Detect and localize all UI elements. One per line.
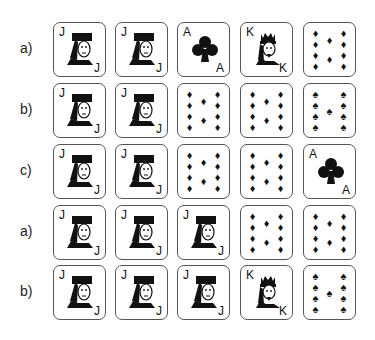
king-portrait-icon	[252, 32, 284, 66]
card-j-of-hearts[interactable]: JJ	[115, 265, 168, 320]
diamond-icon: ♦	[198, 176, 209, 187]
card-j-of-hearts[interactable]: JJ	[53, 265, 106, 320]
card-10-of-diamonds[interactable]: ♦♦♦♦♦♦♦♦♦♦	[303, 205, 356, 260]
diamond-icon: ♦	[310, 244, 321, 255]
king-portrait-icon	[252, 275, 284, 309]
card-k-of-hearts[interactable]: KK	[240, 265, 293, 320]
card-10-of-diamonds[interactable]: ♦♦♦♦♦♦♦♦♦♦	[177, 83, 230, 138]
jack-portrait-icon	[65, 32, 97, 66]
jack-portrait-icon	[65, 93, 97, 127]
card-j-of-hearts[interactable]: JJ	[115, 83, 168, 138]
jack-portrait-icon	[127, 32, 159, 66]
jack-portrait-icon	[127, 93, 159, 127]
row-label: c)	[20, 162, 32, 178]
card-j-of-hearts[interactable]: JJ	[53, 144, 106, 199]
card-rank-bottom: A	[216, 61, 224, 75]
pip-layout: ♦♦♦♦♦♦♦♦♦♦	[310, 28, 350, 72]
spade-icon: ♠	[338, 304, 349, 315]
diamond-icon: ♦	[261, 157, 272, 168]
jack-portrait-icon	[189, 215, 221, 249]
pip-layout: ♦♦♦♦♦♦♦♦♦♦	[310, 211, 350, 255]
jack-portrait-icon	[65, 275, 97, 309]
spade-icon: ♠	[338, 122, 349, 133]
card-j-of-hearts[interactable]: JJ	[53, 205, 106, 260]
pip-layout: ♦♦♦♦♦♦♦♦♦♦	[184, 150, 224, 194]
row-label: b)	[20, 283, 32, 299]
spade-icon: ♠	[310, 122, 321, 133]
card-row: b)JJJJJJKK♠♠♠♠♠♠♠♠♠	[0, 265, 375, 321]
pip-layout: ♦♦♦♦♦♦♦♦♦♦	[247, 211, 287, 255]
card-10-of-diamonds[interactable]: ♦♦♦♦♦♦♦♦♦♦	[240, 144, 293, 199]
jack-portrait-icon	[127, 215, 159, 249]
card-row: c)JJJJ♦♦♦♦♦♦♦♦♦♦♦♦♦♦♦♦♦♦♦♦AA	[0, 144, 375, 200]
card-10-of-diamonds[interactable]: ♦♦♦♦♦♦♦♦♦♦	[240, 83, 293, 138]
card-10-of-diamonds[interactable]: ♦♦♦♦♦♦♦♦♦♦	[177, 144, 230, 199]
diamond-icon: ♦	[324, 218, 335, 229]
row-label: b)	[20, 101, 32, 117]
card-rank-bottom: A	[342, 183, 350, 197]
row-label: a)	[20, 223, 32, 239]
card-9-of-spades[interactable]: ♠♠♠♠♠♠♠♠♠	[303, 83, 356, 138]
card-k-of-hearts[interactable]: KK	[240, 22, 293, 77]
diamond-icon: ♦	[261, 237, 272, 248]
diamond-icon: ♦	[275, 244, 286, 255]
diamond-icon: ♦	[324, 54, 335, 65]
card-j-of-hearts[interactable]: JJ	[115, 144, 168, 199]
jack-portrait-icon	[65, 154, 97, 188]
spade-icon: ♠	[310, 304, 321, 315]
diamond-icon: ♦	[247, 122, 258, 133]
diamond-icon: ♦	[247, 183, 258, 194]
diamond-icon: ♦	[338, 244, 349, 255]
diamond-icon: ♦	[184, 122, 195, 133]
jack-portrait-icon	[127, 154, 159, 188]
diamond-icon: ♦	[198, 157, 209, 168]
diamond-icon: ♦	[184, 183, 195, 194]
club-icon	[192, 35, 218, 63]
card-a-of-clubs[interactable]: AA	[303, 144, 356, 199]
pip-layout: ♦♦♦♦♦♦♦♦♦♦	[247, 89, 287, 133]
diamond-icon: ♦	[275, 183, 286, 194]
club-icon	[318, 157, 344, 185]
card-a-of-clubs[interactable]: AA	[177, 22, 230, 77]
card-j-of-hearts[interactable]: JJ	[53, 83, 106, 138]
jack-portrait-icon	[65, 215, 97, 249]
spade-icon: ♠	[324, 288, 335, 299]
diamond-icon: ♦	[324, 237, 335, 248]
card-j-of-hearts[interactable]: JJ	[177, 265, 230, 320]
diamond-icon: ♦	[198, 96, 209, 107]
row-label: a)	[20, 40, 32, 56]
diamond-icon: ♦	[261, 176, 272, 187]
diamond-icon: ♦	[275, 122, 286, 133]
pip-layout: ♠♠♠♠♠♠♠♠♠	[310, 271, 350, 315]
card-j-of-hearts[interactable]: JJ	[177, 205, 230, 260]
card-row: b)JJJJ♦♦♦♦♦♦♦♦♦♦♦♦♦♦♦♦♦♦♦♦♠♠♠♠♠♠♠♠♠	[0, 83, 375, 139]
diamond-icon: ♦	[212, 183, 223, 194]
jack-portrait-icon	[189, 275, 221, 309]
card-rank-top: A	[183, 25, 191, 39]
diamond-icon: ♦	[261, 115, 272, 126]
card-rank-top: A	[309, 147, 317, 161]
diamond-icon: ♦	[261, 96, 272, 107]
card-row: a)JJJJAAKK♦♦♦♦♦♦♦♦♦♦	[0, 22, 375, 78]
card-j-of-hearts[interactable]: JJ	[115, 22, 168, 77]
card-9-of-spades[interactable]: ♠♠♠♠♠♠♠♠♠	[303, 265, 356, 320]
jack-portrait-icon	[127, 275, 159, 309]
pip-layout: ♦♦♦♦♦♦♦♦♦♦	[247, 150, 287, 194]
diamond-icon: ♦	[324, 35, 335, 46]
diamond-icon: ♦	[198, 115, 209, 126]
pip-layout: ♦♦♦♦♦♦♦♦♦♦	[184, 89, 224, 133]
diamond-icon: ♦	[212, 122, 223, 133]
diamond-icon: ♦	[247, 244, 258, 255]
card-j-of-hearts[interactable]: JJ	[53, 22, 106, 77]
card-10-of-diamonds[interactable]: ♦♦♦♦♦♦♦♦♦♦	[303, 22, 356, 77]
card-10-of-diamonds[interactable]: ♦♦♦♦♦♦♦♦♦♦	[240, 205, 293, 260]
diamond-icon: ♦	[310, 61, 321, 72]
pip-layout: ♠♠♠♠♠♠♠♠♠	[310, 89, 350, 133]
spade-icon: ♠	[324, 106, 335, 117]
diamond-icon: ♦	[338, 61, 349, 72]
card-row: a)JJJJJJ♦♦♦♦♦♦♦♦♦♦♦♦♦♦♦♦♦♦♦♦	[0, 205, 375, 261]
diamond-icon: ♦	[261, 218, 272, 229]
card-j-of-hearts[interactable]: JJ	[115, 205, 168, 260]
